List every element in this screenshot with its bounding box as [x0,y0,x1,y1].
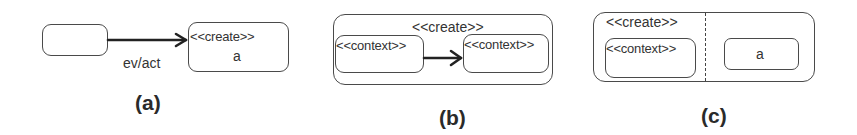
arrow-b [424,51,461,65]
arrow-a [108,34,186,46]
transition-arrows [0,0,857,135]
